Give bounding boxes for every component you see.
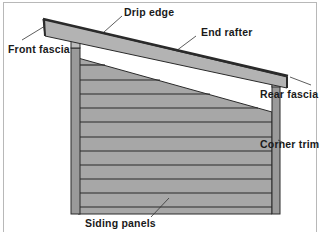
label-front-fascia: Front fascia [8,43,70,55]
left-corner-trim [71,48,80,214]
siding-panels [78,58,272,214]
shed-illustration [0,0,323,232]
label-end-rafter: End rafter [201,26,253,38]
front-fascia [44,19,45,36]
label-siding-panels: Siding panels [85,217,156,229]
label-drip-edge: Drip edge [124,6,174,18]
label-corner-trim: Corner trim [260,138,319,150]
label-rear-fascia: Rear fascia [260,88,318,100]
right-corner-trim [272,86,280,214]
